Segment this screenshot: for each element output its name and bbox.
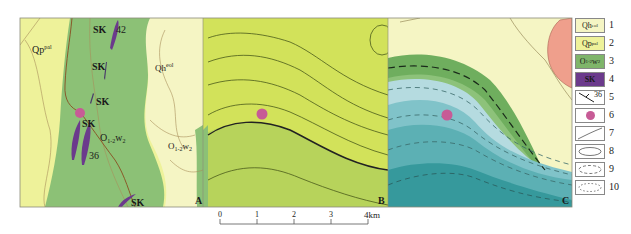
- dashed-ellipse-icon: [576, 163, 604, 176]
- legend-number: 9: [609, 163, 614, 174]
- legend-number: 8: [609, 145, 614, 156]
- scale-bar: [220, 219, 368, 224]
- skarn-label-1: SK: [93, 25, 106, 35]
- legend-number: 1: [609, 19, 614, 30]
- legend-swatch-sk: SK: [575, 72, 605, 87]
- legend-number: 4: [609, 73, 614, 84]
- panel-label-a: A: [195, 195, 202, 206]
- skarn-label-3: SK: [96, 97, 109, 107]
- dip-value-42: 42: [116, 25, 126, 35]
- scale-label-1: 1: [255, 210, 259, 219]
- legend-item-7: 7: [575, 126, 631, 143]
- panel-label-b: B: [378, 195, 385, 206]
- legend-swatch-sample: [575, 108, 605, 123]
- dip-value-36: 36: [89, 151, 99, 161]
- legend-item-2: Qppal 2: [575, 36, 631, 53]
- legend-item-1: Qheol 1: [575, 18, 631, 35]
- scale-label-4km: 4km: [364, 210, 380, 220]
- panel-c-map: [388, 18, 572, 207]
- legend-swatch-solid-contour: [575, 144, 605, 159]
- legend-item-6: 6: [575, 108, 631, 125]
- legend-swatch-o: O1-2w2: [575, 54, 605, 69]
- legend-item-8: 8: [575, 144, 631, 161]
- legend-item-5: 36 5: [575, 90, 631, 107]
- legend-swatch-boundary: [575, 126, 605, 141]
- legend-number: 7: [609, 127, 614, 138]
- skarn-label-5: SK: [131, 198, 144, 208]
- scale-label-2: 2: [292, 210, 296, 219]
- legend-number: 5: [609, 91, 614, 102]
- unit-label-qp: Qppal: [32, 44, 52, 55]
- dotted-ellipse-icon: [576, 181, 604, 194]
- legend-item-3: O1-2w2 3: [575, 54, 631, 71]
- legend-number: 3: [609, 55, 614, 66]
- boundary-line-icon: [576, 127, 604, 140]
- legend-swatch-dotted-contour: [575, 180, 605, 195]
- legend-item-4: SK 4: [575, 72, 631, 89]
- legend-swatch-dashed-contour: [575, 162, 605, 177]
- unit-label-qh: Qheol: [155, 62, 173, 73]
- sample-point-icon: [586, 111, 595, 120]
- geological-map-figure: [0, 0, 631, 234]
- unit-label-o-right: O1-2w2: [168, 142, 192, 152]
- unit-label-o-center: O1-2w2: [100, 133, 125, 144]
- legend-number: 6: [609, 109, 614, 120]
- panel-b-map: [203, 18, 394, 207]
- panel-label-c: C: [562, 195, 569, 206]
- legend-item-9: 9: [575, 162, 631, 179]
- skarn-label-2: SK: [92, 62, 105, 72]
- legend-swatch-strike-dip: 36: [575, 90, 605, 105]
- solid-ellipse-icon: [576, 145, 604, 158]
- legend-swatch-qp: Qppal: [575, 36, 605, 51]
- scale-label-3: 3: [329, 210, 333, 219]
- legend-item-10: 10: [575, 180, 631, 197]
- scale-label-0: 0: [218, 210, 222, 219]
- legend-number: 2: [609, 37, 614, 48]
- legend-swatch-qh: Qheol: [575, 18, 605, 33]
- skarn-label-4: SK: [82, 119, 95, 129]
- legend-number: 10: [609, 181, 619, 192]
